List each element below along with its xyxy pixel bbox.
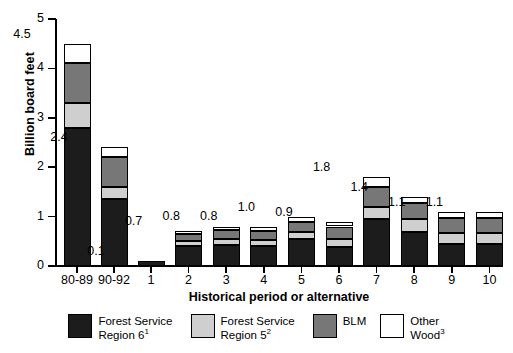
- stacked-bar-chart: Billion board feet 012345 Historical per…: [0, 0, 513, 353]
- bar-9: [438, 212, 465, 266]
- bar-segment-r6: [250, 246, 277, 266]
- y-tick-mark: [48, 166, 56, 168]
- bar-segment-r5: [401, 219, 428, 232]
- legend-swatch-other: [380, 314, 404, 338]
- x-tick-mark: [76, 266, 78, 273]
- legend-swatch-r5: [191, 314, 215, 338]
- legend-item-r5: Forest ServiceRegion 52: [191, 313, 295, 342]
- bar-value-label-5: 1.0: [238, 201, 255, 214]
- bar-segment-r5: [438, 233, 465, 244]
- bar-segment-other: [438, 212, 465, 218]
- x-tick-mark: [376, 266, 378, 273]
- y-tick-label-4: 4: [4, 61, 44, 74]
- x-tick-mark: [150, 266, 152, 273]
- legend-swatch-blm: [313, 314, 337, 338]
- y-tick-mark: [48, 216, 56, 218]
- bar-segment-blm: [175, 234, 202, 241]
- bar-segment-other: [326, 222, 353, 227]
- y-tick-label-3: 3: [4, 111, 44, 124]
- legend-item-r6: Forest ServiceRegion 61: [68, 313, 172, 342]
- bar-value-label-7: 1.8: [313, 161, 330, 174]
- bar-segment-r6: [401, 232, 428, 266]
- y-tick-label-5: 5: [4, 12, 44, 25]
- bar-segment-other: [250, 227, 277, 231]
- bar-segment-r5: [250, 240, 277, 246]
- y-tick-mark: [48, 117, 56, 119]
- bar-segment-r6: [326, 247, 353, 266]
- x-tick-mark: [113, 266, 115, 273]
- bar-2: [175, 231, 202, 266]
- bar-value-label-4: 0.8: [200, 210, 217, 223]
- legend-item-other: OtherWood3: [380, 313, 444, 342]
- bar-segment-r6: [363, 219, 390, 266]
- y-axis-tick-labels: 012345: [0, 0, 44, 353]
- bar-value-label-9: 1.1: [388, 196, 405, 209]
- bar-segment-r5: [288, 232, 315, 238]
- y-tick-mark: [48, 265, 56, 267]
- x-axis-line: [55, 265, 503, 267]
- legend-label-other: OtherWood3: [410, 313, 444, 342]
- bar-segment-r6: [438, 244, 465, 266]
- bar-3: [213, 226, 240, 266]
- y-tick-label-0: 0: [4, 259, 44, 272]
- bar-segment-blm: [250, 231, 277, 240]
- bar-segment-blm: [64, 63, 91, 103]
- x-tick-mark: [451, 266, 453, 273]
- bar-segment-r5: [213, 239, 240, 245]
- bar-4: [250, 226, 277, 266]
- bar-value-label-90-92: 2.4: [50, 131, 67, 144]
- bar-segment-blm: [326, 227, 353, 239]
- bar-segment-blm: [213, 230, 240, 239]
- bar-segment-r6: [213, 245, 240, 266]
- bar-segment-r5: [175, 241, 202, 246]
- bar-segment-other: [175, 231, 202, 233]
- x-tick-mark: [301, 266, 303, 273]
- bar-segment-other: [64, 44, 91, 64]
- x-tick-mark: [263, 266, 265, 273]
- bar-10: [476, 212, 503, 266]
- legend-item-blm: BLM: [313, 313, 367, 338]
- chart-legend: Forest ServiceRegion 61Forest ServiceReg…: [0, 313, 513, 353]
- bar-segment-r6: [288, 239, 315, 266]
- x-tick-mark: [225, 266, 227, 273]
- bar-value-label-6: 0.9: [275, 206, 292, 219]
- x-tick-mark: [413, 266, 415, 273]
- legend-swatch-r6: [68, 314, 92, 338]
- x-tick-label-10: 10: [459, 274, 513, 287]
- x-tick-mark: [489, 266, 491, 273]
- bar-segment-r5: [363, 207, 390, 219]
- bar-segment-blm: [438, 218, 465, 233]
- x-tick-mark: [188, 266, 190, 273]
- bar-segment-r5: [476, 233, 503, 244]
- bar-segment-other: [101, 147, 128, 157]
- y-tick-mark: [48, 68, 56, 70]
- bar-segment-r6: [175, 246, 202, 266]
- plot-area: [55, 19, 503, 266]
- bar-5: [288, 217, 315, 266]
- bar-value-label-80-89: 4.5: [13, 28, 30, 41]
- legend-label-blm: BLM: [343, 313, 367, 328]
- bar-segment-blm: [476, 218, 503, 233]
- bar-segment-r5: [326, 239, 353, 247]
- legend-label-r5: Forest ServiceRegion 52: [221, 313, 295, 342]
- bar-segment-r5: [101, 187, 128, 199]
- bar-segment-other: [476, 212, 503, 218]
- x-tick-mark: [338, 266, 340, 273]
- bar-value-label-1: 0.1: [87, 245, 104, 258]
- legend-label-r6: Forest ServiceRegion 61: [98, 313, 172, 342]
- bar-segment-r6: [476, 244, 503, 266]
- bar-value-label-8: 1.4: [350, 181, 367, 194]
- bar-segment-r5: [64, 103, 91, 128]
- bar-segment-other: [213, 227, 240, 230]
- bar-segment-blm: [288, 222, 315, 233]
- bar-value-label-10: 1.1: [426, 196, 443, 209]
- y-tick-label-1: 1: [4, 210, 44, 223]
- y-tick-label-2: 2: [4, 160, 44, 173]
- bar-value-label-3: 0.8: [162, 210, 179, 223]
- x-axis-title: Historical period or alternative: [55, 290, 503, 304]
- bar-value-label-2: 0.7: [125, 215, 142, 228]
- bar-6: [326, 222, 353, 266]
- bar-segment-blm: [101, 157, 128, 187]
- bar-80-89: [64, 44, 91, 266]
- y-tick-mark: [48, 18, 56, 20]
